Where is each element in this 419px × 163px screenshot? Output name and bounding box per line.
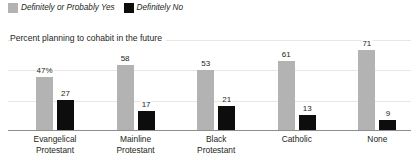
chart-title: Percent planning to cohabit in the futur… (10, 33, 166, 44)
bar-yes: 53 (197, 70, 214, 130)
category-label-line-2: Protestant (25, 145, 85, 156)
bar-groups: 47% 27 58 17 53 21 61 (8, 40, 411, 131)
bar-yes: 61 (278, 61, 295, 130)
legend-item-no: Definitely No (124, 3, 183, 13)
legend-swatch-no (124, 3, 134, 13)
bar-value-no: 27 (60, 89, 71, 98)
bar-group-evangelical-protestant: 47% 27 (8, 40, 89, 131)
legend-swatch-yes (8, 3, 18, 13)
bar-group-catholic: 61 13 (250, 40, 331, 131)
bar-no: 9 (379, 120, 396, 130)
bar-value-yes: 58 (120, 54, 131, 63)
legend-label-no: Definitely No (137, 3, 183, 13)
bar-value-no: 17 (141, 100, 152, 109)
bar-value-yes: 53 (200, 59, 211, 68)
legend-label-yes: Definitely or Probably Yes (21, 3, 115, 13)
category-label-evangelical-protestant: Evangelical Protestant (8, 134, 89, 155)
category-label-line-1: Mainline (106, 134, 166, 145)
category-label-black-protestant: Black Protestant (169, 134, 250, 155)
category-label-catholic: Catholic (250, 134, 331, 155)
bar-yes: 58 (117, 65, 134, 130)
bar-no: 13 (299, 115, 316, 130)
bar-value-yes: 61 (281, 50, 292, 59)
category-label-line-1: None (347, 134, 407, 145)
category-label-line-2: Protestant (106, 145, 166, 156)
category-label-line-1: Catholic (267, 134, 327, 145)
bar-yes: 71 (358, 50, 375, 130)
bar-no: 21 (218, 106, 235, 130)
category-label-mainline-protestant: Mainline Protestant (89, 134, 170, 155)
bar-group-black-protestant: 53 21 (169, 40, 250, 131)
bar-value-no: 21 (221, 95, 232, 104)
bar-value-no: 13 (302, 104, 313, 113)
category-axis-labels: Evangelical Protestant Mainline Protesta… (8, 134, 411, 155)
bar-no: 17 (138, 111, 155, 130)
bar-group-mainline-protestant: 58 17 (89, 40, 170, 131)
category-label-line-1: Black (186, 134, 246, 145)
bar-group-none: 71 9 (330, 40, 411, 131)
category-label-line-1: Evangelical (25, 134, 85, 145)
bar-chart: Definitely or Probably Yes Definitely No… (0, 0, 419, 163)
bar-yes: 47% (36, 77, 53, 130)
chart-legend: Definitely or Probably Yes Definitely No (8, 1, 183, 14)
bar-value-no: 9 (385, 109, 391, 118)
category-label-none: None (330, 134, 411, 155)
bar-value-yes: 71 (361, 39, 372, 48)
category-label-line-2: Protestant (186, 145, 246, 156)
bar-value-yes: 47% (35, 66, 53, 75)
bar-no: 27 (57, 100, 74, 130)
legend-item-yes: Definitely or Probably Yes (8, 3, 115, 13)
